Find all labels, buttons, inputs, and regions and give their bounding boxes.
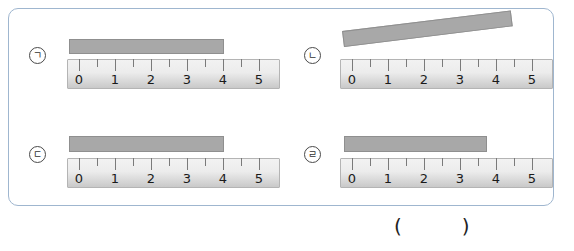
problem-panel: ㄱ 0 — [8, 8, 554, 206]
ruler-2: 0 1 2 3 4 5 — [340, 59, 553, 89]
answer-blank[interactable]: () — [394, 214, 530, 238]
ruler-numbers-1: 0 1 2 3 4 5 — [67, 59, 280, 89]
ruler-number: 0 — [345, 72, 359, 87]
measured-bar-1 — [69, 39, 224, 54]
problem-item-4: ㄹ 0 1 — [282, 108, 555, 207]
answer-open-paren: ( — [394, 214, 462, 238]
ruler-3: 0 1 2 3 4 5 — [67, 158, 280, 188]
ruler-numbers-2: 0 1 2 3 4 5 — [340, 59, 553, 89]
item-label-4: ㄹ — [304, 146, 321, 163]
ruler-number: 0 — [72, 72, 86, 87]
problem-item-3: ㄷ 0 1 — [9, 108, 282, 207]
ruler-number: 3 — [453, 171, 467, 186]
ruler-number: 4 — [489, 171, 503, 186]
ruler-number: 1 — [381, 171, 395, 186]
ruler-number: 1 — [108, 72, 122, 87]
ruler-number: 4 — [216, 171, 230, 186]
ruler-number: 5 — [525, 72, 539, 87]
ruler-number: 2 — [144, 171, 158, 186]
ruler-number: 0 — [345, 171, 359, 186]
ruler-number: 2 — [417, 171, 431, 186]
ruler-number: 1 — [108, 171, 122, 186]
problem-item-2: ㄴ 0 — [282, 9, 555, 108]
item-label-1: ㄱ — [29, 47, 46, 64]
worksheet-page: ㄱ 0 — [0, 0, 574, 251]
ruler-number: 4 — [216, 72, 230, 87]
answer-close-paren: ) — [462, 214, 530, 238]
problem-item-1: ㄱ 0 — [9, 9, 282, 108]
ruler-number: 3 — [453, 72, 467, 87]
ruler-number: 5 — [252, 171, 266, 186]
item-label-2: ㄴ — [304, 47, 321, 64]
ruler-number: 4 — [489, 72, 503, 87]
ruler-number: 3 — [180, 171, 194, 186]
ruler-number: 5 — [525, 171, 539, 186]
ruler-numbers-3: 0 1 2 3 4 5 — [67, 158, 280, 188]
ruler-4: 0 1 2 3 4 5 — [340, 158, 553, 188]
measured-bar-4 — [344, 136, 487, 152]
ruler-1: 0 1 2 3 4 5 — [67, 59, 280, 89]
ruler-number: 0 — [72, 171, 86, 186]
ruler-number: 2 — [144, 72, 158, 87]
item-label-3: ㄷ — [29, 146, 46, 163]
ruler-number: 5 — [252, 72, 266, 87]
measured-bar-3 — [69, 136, 224, 152]
ruler-number: 2 — [417, 72, 431, 87]
measured-bar-2 — [342, 10, 513, 47]
ruler-number: 3 — [180, 72, 194, 87]
ruler-numbers-4: 0 1 2 3 4 5 — [340, 158, 553, 188]
ruler-number: 1 — [381, 72, 395, 87]
